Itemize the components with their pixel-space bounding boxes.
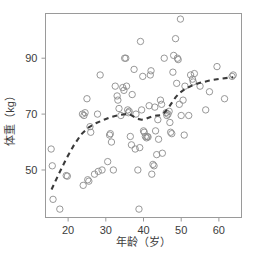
x-tick-label: 60 (213, 224, 225, 236)
y-tick-label: 70 (25, 108, 37, 120)
figure-background (0, 0, 259, 257)
x-tick-label: 40 (137, 224, 149, 236)
x-tick-label: 50 (175, 224, 187, 236)
y-tick-label: 90 (25, 52, 37, 64)
y-tick-label: 50 (25, 164, 37, 176)
x-axis-label: 年龄（岁） (116, 235, 171, 248)
chart-canvas: 2030405060 507090 年龄（岁） 体重（kg） (0, 0, 259, 257)
x-tick-label: 30 (100, 224, 112, 236)
y-axis-label: 体重（kg） (3, 90, 16, 146)
x-tick-label: 20 (62, 224, 74, 236)
scatter-plot-figure: 2030405060 507090 年龄（岁） 体重（kg） (0, 0, 259, 257)
